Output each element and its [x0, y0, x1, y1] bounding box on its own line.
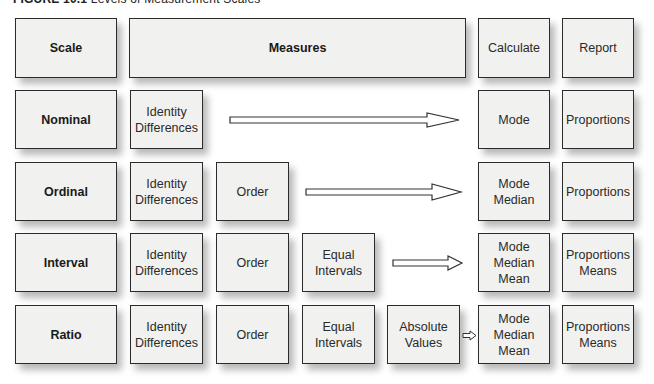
measure-identity-differences: Identity Differences — [130, 233, 203, 292]
figure-title: FIGURE 10.1 Levels of Measurement Scales — [13, 0, 260, 6]
calculate-ordinal: Mode Median — [478, 162, 550, 221]
scale-ordinal: Ordinal — [15, 162, 117, 221]
measure-identity-differences: Identity Differences — [130, 162, 203, 221]
arrow-right-icon — [229, 111, 461, 129]
scale-interval: Interval — [15, 233, 117, 292]
header-scale: Scale — [15, 18, 117, 78]
measure-equal-intervals: Equal Intervals — [302, 233, 375, 292]
report-interval: Proportions Means — [562, 233, 634, 292]
header-measures: Measures — [129, 18, 466, 78]
report-ordinal: Proportions — [562, 162, 634, 221]
report-nominal: Proportions — [562, 90, 634, 149]
measure-identity-differences: Identity Differences — [130, 90, 203, 149]
figure-label: FIGURE 10.1 — [13, 0, 87, 6]
calculate-nominal: Mode — [478, 90, 550, 149]
measure-order: Order — [216, 162, 289, 221]
measure-equal-intervals: Equal Intervals — [302, 305, 375, 364]
scale-ratio: Ratio — [15, 305, 117, 364]
measure-absolute-values: Absolute Values — [387, 305, 460, 364]
measure-order: Order — [216, 233, 289, 292]
arrow-right-icon — [392, 255, 464, 271]
figure-caption: Levels of Measurement Scales — [91, 0, 261, 6]
arrow-right-icon — [305, 183, 463, 201]
measure-identity-differences: Identity Differences — [130, 305, 203, 364]
header-report: Report — [562, 18, 634, 78]
scale-nominal: Nominal — [15, 90, 117, 149]
report-ratio: Proportions Means — [562, 305, 634, 364]
header-calculate: Calculate — [478, 18, 550, 78]
calculate-ratio: Mode Median Mean — [478, 305, 550, 364]
measure-order: Order — [216, 305, 289, 364]
arrow-right-icon — [462, 330, 477, 341]
calculate-interval: Mode Median Mean — [478, 233, 550, 292]
